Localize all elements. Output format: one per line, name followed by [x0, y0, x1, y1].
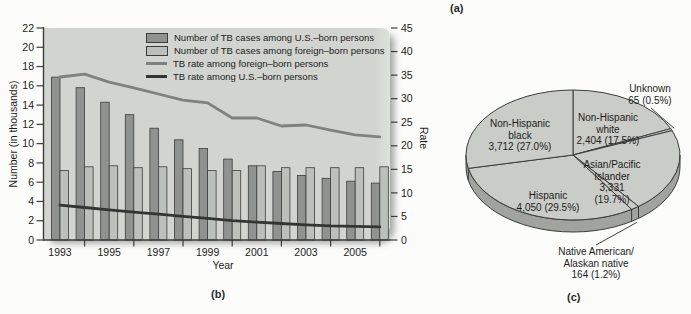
foreign-born-cases-bar — [85, 167, 94, 240]
left-axis-tick-label: 2 — [28, 214, 34, 226]
us-born-cases-bar — [125, 115, 134, 240]
left-axis-tick-label: 18 — [22, 60, 34, 72]
us-born-cases-bar — [273, 172, 282, 240]
legend-item-label: TB rate among foreign–born persons — [173, 58, 328, 69]
pie-label-line: 3,712 (27.0%) — [470, 141, 570, 153]
foreign-born-cases-bar — [306, 168, 315, 240]
pie-label-line: white — [558, 124, 658, 136]
pie-label-line: Unknown — [612, 83, 688, 95]
us-born-cases-bar — [298, 175, 307, 240]
legend-line-swatch — [146, 75, 167, 78]
right-axis-tick-label: 15 — [401, 163, 413, 175]
left-axis-tick-label: 10 — [22, 137, 34, 149]
right-axis-tick-label: 45 — [401, 22, 413, 34]
foreign-born-cases-bar — [109, 166, 118, 240]
foreign-born-cases-bar — [183, 169, 192, 240]
legend-item: TB rate among foreign–born persons — [146, 57, 385, 70]
right-axis-tick-label: 10 — [401, 187, 413, 199]
legend-item-label: TB rate among U.S.–born persons — [173, 71, 318, 82]
right-axis-tick-label: 35 — [401, 69, 413, 81]
foreign-born-cases-bar — [331, 168, 340, 240]
us-born-cases-bar — [322, 178, 331, 240]
left-axis-tick-label: 6 — [28, 176, 34, 188]
panel-b-label: (b) — [211, 288, 225, 300]
pie-label-native-american-alaskan-native: Native American/Alaskan native164 (1.2%) — [540, 246, 652, 281]
foreign-born-cases-bar — [355, 168, 364, 240]
foreign-born-cases-bar — [232, 171, 241, 240]
pie-label-line: Non-Hispanic — [558, 112, 658, 124]
foreign-born-cases-bar — [257, 166, 266, 240]
x-axis-tick-label: 2001 — [245, 246, 269, 258]
x-axis-tick-label: 1997 — [147, 246, 171, 258]
us-born-cases-bar — [371, 183, 380, 240]
legend-item: TB rate among U.S.–born persons — [146, 70, 385, 83]
pie-label-line: 2,404 (17.5%) — [558, 135, 658, 147]
pie-label-line: 65 (0.5%) — [612, 95, 688, 107]
us-born-cases-bar — [175, 140, 184, 240]
left-axis-title: Number (in thousands) — [7, 81, 19, 188]
panel-c-label: (c) — [567, 291, 580, 303]
right-axis-tick-label: 0 — [401, 234, 407, 246]
pie-label-non-hispanic-white: Non-Hispanicwhite2,404 (17.5%) — [558, 112, 658, 147]
pie-label-line: Non-Hispanic — [470, 118, 570, 130]
us-born-cases-bar — [52, 77, 61, 240]
us-born-cases-bar — [150, 128, 159, 240]
x-axis-tick-label: 2003 — [294, 246, 318, 258]
us-born-cases-bar — [224, 159, 233, 240]
us-born-cases-bar — [347, 181, 356, 240]
right-axis-title: Rate — [418, 127, 430, 149]
left-axis-tick-label: 16 — [22, 79, 34, 91]
foreign-born-cases-bar — [158, 167, 167, 240]
right-axis-tick-label: 40 — [401, 45, 413, 57]
x-axis-tick-label: 1999 — [196, 246, 220, 258]
pie-label-line: Hispanic — [498, 190, 598, 202]
pie-label-line: Islander — [570, 171, 654, 183]
foreign-born-cases-bar — [380, 167, 389, 240]
us-born-cases-bar — [199, 149, 208, 241]
legend-bar-swatch — [146, 33, 168, 43]
right-axis-tick-label: 5 — [401, 210, 407, 222]
legend-bar-swatch — [146, 46, 168, 56]
foreign-born-cases-bar — [281, 168, 290, 240]
left-axis-tick-label: 8 — [28, 157, 34, 169]
x-axis-tick-label: 2005 — [344, 246, 368, 258]
pie-label-line: Asian/Pacific — [570, 159, 654, 171]
pie-label-line: 164 (1.2%) — [540, 269, 652, 281]
us-born-cases-bar — [101, 102, 110, 240]
panel-a-label: (a) — [450, 2, 463, 14]
right-axis-tick-label: 30 — [401, 92, 413, 104]
x-axis-title: Year — [200, 259, 246, 271]
pie-label-unknown: Unknown65 (0.5%) — [612, 83, 688, 106]
foreign-born-cases-bar — [134, 168, 143, 240]
pie-label-line: 4,050 (29.5%) — [498, 202, 598, 214]
right-axis-tick-label: 25 — [401, 116, 413, 128]
foreign-born-cases-bar — [208, 171, 217, 240]
right-axis-tick-label: 20 — [401, 139, 413, 151]
left-axis-tick-label: 14 — [22, 99, 34, 111]
left-axis-tick-label: 4 — [28, 195, 34, 207]
legend-item: Number of TB cases among U.S.–born perso… — [146, 31, 385, 44]
left-axis-tick-label: 12 — [22, 118, 34, 130]
x-axis-tick-label: 1993 — [48, 246, 72, 258]
left-axis-tick-label: 0 — [28, 234, 34, 246]
legend-item-label: Number of TB cases among U.S.–born perso… — [174, 32, 374, 43]
pie-label-line: Native American/ — [540, 246, 652, 258]
pie-label-hispanic: Hispanic4,050 (29.5%) — [498, 190, 598, 213]
figure-canvas: (a) 024681012141618202205101520253035404… — [0, 0, 691, 314]
left-axis-tick-label: 22 — [22, 22, 34, 34]
legend-line-swatch — [146, 62, 167, 65]
us-born-cases-bar — [248, 166, 256, 240]
x-axis-tick-label: 1995 — [98, 246, 122, 258]
us-born-cases-bar — [76, 88, 85, 240]
legend-item: Number of TB cases among foreign–born pe… — [146, 44, 385, 57]
left-axis-tick-label: 20 — [22, 41, 34, 53]
pie-label-line: black — [470, 130, 570, 142]
pie-label-non-hispanic-black: Non-Hispanicblack3,712 (27.0%) — [470, 118, 570, 153]
legend-item-label: Number of TB cases among foreign–born pe… — [174, 45, 385, 56]
bar-chart-legend: Number of TB cases among U.S.–born perso… — [146, 31, 385, 83]
pie-label-line: Alaskan native — [540, 258, 652, 270]
